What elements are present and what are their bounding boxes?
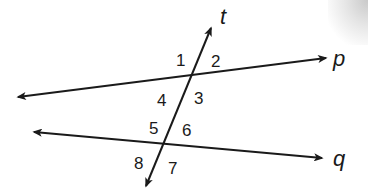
transversal-diagram: t p q 1 2 4 3 5 6 8 7 [0, 0, 368, 192]
label-q: q [333, 146, 346, 171]
label-t: t [220, 4, 227, 29]
angle-label-4: 4 [157, 91, 166, 110]
diagram-canvas: t p q 1 2 4 3 5 6 8 7 [0, 0, 368, 192]
angle-label-6: 6 [182, 121, 191, 140]
line-q [34, 132, 322, 158]
angle-label-2: 2 [211, 52, 220, 71]
angle-label-8: 8 [134, 154, 143, 173]
angle-label-1: 1 [176, 51, 185, 70]
angle-label-3: 3 [194, 89, 203, 108]
line-p [18, 58, 326, 97]
label-p: p [332, 46, 345, 71]
angle-label-5: 5 [149, 119, 158, 138]
angle-label-7: 7 [168, 159, 177, 178]
